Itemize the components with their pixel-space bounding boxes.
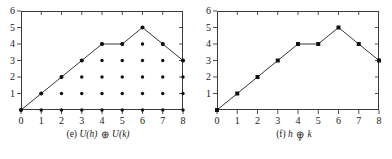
panel-caption-e: (e) U(h) ⊕ U(k)	[0, 129, 196, 140]
data-point-marker	[60, 75, 64, 79]
series-line	[21, 28, 183, 111]
data-point-marker	[161, 42, 165, 46]
y-axis-tick-label: 2	[197, 72, 211, 82]
lattice-point	[100, 92, 103, 95]
data-point-marker	[19, 108, 23, 112]
x-axis-tick-label: 4	[291, 116, 305, 126]
lattice-point	[60, 108, 63, 111]
lattice-point	[100, 108, 103, 111]
lattice-point	[100, 59, 103, 62]
lattice-point	[181, 75, 184, 78]
lattice-point	[80, 92, 83, 95]
series-line	[217, 28, 379, 111]
x-axis-tick-label: 3	[75, 116, 89, 126]
y-axis-tick-label: 3	[197, 56, 211, 66]
x-axis-tick-label: 2	[251, 116, 265, 126]
oplus-icon-e: ⊕	[101, 129, 109, 140]
lattice-point	[161, 92, 164, 95]
lattice-point	[141, 42, 144, 45]
y-axis-tick-label: 4	[197, 39, 211, 49]
caption-left-term-f: h	[288, 129, 293, 139]
data-point-marker	[337, 26, 341, 30]
y-axis-tick-label: 3	[1, 56, 15, 66]
lattice-point	[121, 92, 124, 95]
data-point-marker	[316, 42, 320, 46]
caption-prefix-e: (e)	[66, 129, 77, 139]
lattice-point	[121, 108, 124, 111]
caption-left-term-e: U(h)	[79, 129, 97, 139]
x-axis-tick-label: 6	[332, 116, 346, 126]
y-axis-tick-label: 2	[1, 72, 15, 82]
data-point-marker	[296, 42, 300, 46]
chart-panel-f: (f) h ⊕g k 123456012345678	[196, 0, 392, 159]
lattice-point	[141, 92, 144, 95]
lattice-point	[40, 108, 43, 111]
x-axis-tick-label: 2	[55, 116, 69, 126]
caption-right-term-e: U(k)	[112, 129, 129, 139]
data-point-marker	[120, 42, 124, 46]
data-point-marker	[39, 92, 43, 96]
caption-operator-e: ⊕	[100, 129, 110, 140]
caption-prefix-f: (f)	[276, 129, 286, 139]
y-axis-tick-label: 6	[197, 6, 211, 16]
x-axis-tick-label: 1	[34, 116, 48, 126]
data-point-marker	[357, 42, 361, 46]
x-axis-tick-label: 7	[352, 116, 366, 126]
data-point-marker	[80, 59, 84, 63]
x-axis-tick-label: 0	[14, 116, 28, 126]
oplus-subscript-f: g	[299, 136, 302, 141]
x-axis-tick-label: 6	[136, 116, 150, 126]
y-axis-tick-label: 5	[1, 23, 15, 33]
lattice-point	[141, 75, 144, 78]
x-axis-tick-label: 3	[271, 116, 285, 126]
data-point-marker	[141, 26, 145, 30]
x-axis-tick-label: 0	[210, 116, 224, 126]
lattice-point	[121, 75, 124, 78]
lattice-point	[161, 75, 164, 78]
x-axis-tick-label: 8	[176, 116, 190, 126]
y-axis-tick-label: 4	[1, 39, 15, 49]
data-point-marker	[276, 59, 280, 63]
x-axis-tick-label: 5	[115, 116, 129, 126]
lattice-point	[60, 92, 63, 95]
caption-operator-f: ⊕g	[295, 129, 305, 140]
x-axis-tick-label: 1	[230, 116, 244, 126]
lattice-point	[181, 92, 184, 95]
lattice-point	[181, 108, 184, 111]
lattice-point	[161, 108, 164, 111]
chart-panel-e: (e) U(h) ⊕ U(k) 123456012345678	[0, 0, 196, 159]
y-axis-tick-label: 5	[197, 23, 211, 33]
lattice-point	[80, 108, 83, 111]
panel-caption-f: (f) h ⊕g k	[196, 129, 392, 140]
data-point-marker	[100, 42, 104, 46]
lattice-point	[141, 108, 144, 111]
x-axis-tick-label: 5	[311, 116, 325, 126]
data-point-marker	[235, 92, 239, 96]
caption-right-term-f: k	[308, 129, 312, 139]
data-point-marker	[256, 75, 260, 79]
lattice-point	[121, 59, 124, 62]
figure-container: (e) U(h) ⊕ U(k) 123456012345678 (f) h ⊕g…	[0, 0, 392, 159]
y-axis-tick-label: 1	[1, 89, 15, 99]
x-axis-tick-label: 8	[372, 116, 386, 126]
lattice-point	[141, 59, 144, 62]
x-axis-tick-label: 4	[95, 116, 109, 126]
data-point-marker	[215, 108, 219, 112]
lattice-point	[100, 75, 103, 78]
data-point-marker	[377, 59, 381, 63]
data-point-marker	[181, 59, 185, 63]
x-axis-tick-label: 7	[156, 116, 170, 126]
lattice-point	[80, 75, 83, 78]
y-axis-tick-label: 1	[197, 89, 211, 99]
lattice-point	[161, 59, 164, 62]
y-axis-tick-label: 6	[1, 6, 15, 16]
